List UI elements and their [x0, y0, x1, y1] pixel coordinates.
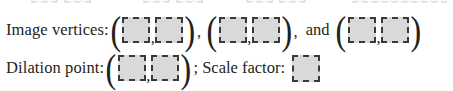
conjunction-and: and	[306, 20, 330, 40]
vertex-1-coordinate-pair: ( , )	[109, 15, 197, 45]
open-paren: (	[106, 53, 117, 83]
ghost-answer-box	[143, 0, 170, 3]
dilation-point-x-input[interactable]	[118, 55, 146, 81]
open-paren: (	[207, 15, 218, 45]
coordinate-comma: ,	[247, 28, 252, 48]
vertex-2-coordinate-pair: ( , )	[205, 15, 293, 45]
ghost-answer-box	[352, 0, 447, 3]
image-vertices-row: Image vertices: ( , ) , ( , ) , and ( , …	[0, 12, 423, 48]
dilation-point-row: Dilation point: ( , ) ; Scale factor:	[0, 50, 320, 86]
ghost-answer-box	[176, 0, 203, 3]
close-paren: )	[411, 15, 422, 45]
close-paren: )	[185, 15, 196, 45]
image-vertices-label: Image vertices:	[6, 20, 109, 40]
ghost-answer-box	[246, 0, 273, 3]
vertex-3-coordinate-pair: ( , )	[334, 15, 422, 45]
pair-separator: ,	[294, 22, 298, 42]
coordinate-comma: ,	[376, 28, 381, 48]
dilation-point-label: Dilation point:	[6, 58, 104, 78]
clause-separator: ;	[194, 58, 199, 78]
dilation-point-y-input[interactable]	[151, 55, 179, 81]
dilation-point-coordinate-pair: ( , )	[104, 53, 192, 83]
scale-factor-input[interactable]	[292, 55, 320, 82]
vertex-1-x-input[interactable]	[122, 17, 150, 43]
ghost-answer-box	[31, 0, 58, 3]
scale-factor-label: Scale factor:	[202, 58, 285, 78]
open-paren: (	[110, 15, 121, 45]
close-paren: )	[180, 53, 191, 83]
close-paren: )	[281, 15, 292, 45]
coordinate-comma: ,	[146, 66, 151, 86]
vertex-1-y-input[interactable]	[155, 17, 183, 43]
ghost-answer-box	[64, 0, 91, 3]
vertex-3-x-input[interactable]	[348, 17, 376, 43]
coordinate-comma: ,	[150, 28, 155, 48]
pair-separator: ,	[197, 22, 201, 42]
previous-line-remnant: ( ) ( )	[0, 0, 453, 4]
vertex-2-x-input[interactable]	[219, 17, 247, 43]
open-paren: (	[336, 15, 347, 45]
ghost-answer-box	[279, 0, 306, 3]
vertex-3-y-input[interactable]	[381, 17, 409, 43]
vertex-2-y-input[interactable]	[252, 17, 280, 43]
